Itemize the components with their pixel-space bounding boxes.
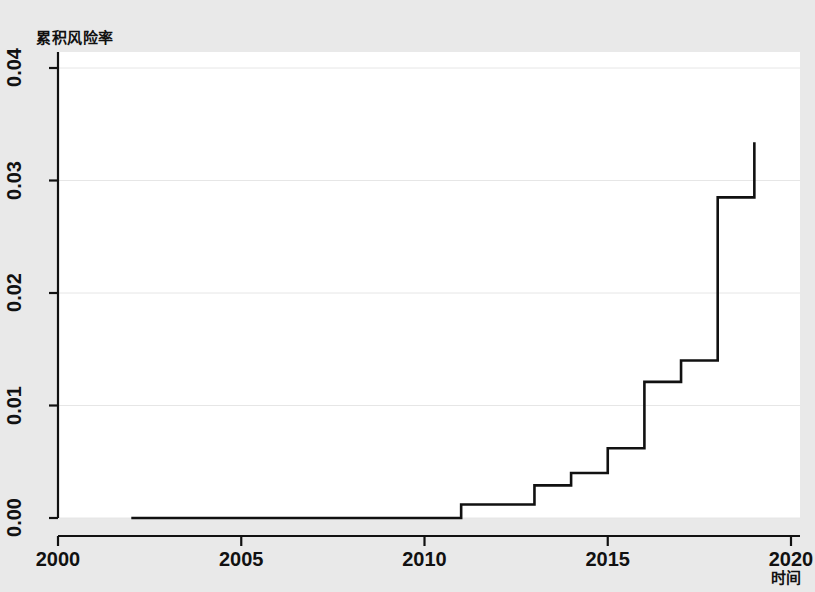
y-tick-label: 0.03: [3, 150, 26, 210]
y-tick-label: 0.02: [3, 263, 26, 323]
x-tick-label: 2015: [563, 548, 653, 571]
x-tick-label: 2000: [13, 548, 103, 571]
plot-background: [58, 52, 800, 518]
y-tick-label: 0.04: [3, 38, 26, 98]
y-tick-label: 0.01: [3, 375, 26, 435]
cumulative-hazard-chart: 累积风险率 0.000.010.020.030.04 2000200520102…: [0, 0, 815, 592]
plot-canvas: [0, 0, 815, 592]
x-axis-title: 时间: [771, 566, 801, 587]
y-tick-label: 0.00: [3, 488, 26, 548]
x-tick-label: 2005: [196, 548, 286, 571]
x-tick-label: 2010: [380, 548, 470, 571]
